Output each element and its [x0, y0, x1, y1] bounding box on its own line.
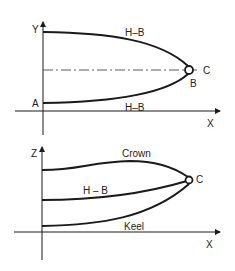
upper-hb-label: H–B	[125, 28, 144, 38]
half-breadth-curve	[42, 181, 187, 200]
upper-half-breadth-curve	[43, 32, 188, 66]
point-c-circle	[186, 177, 193, 184]
x-axis-label-bottom: X	[206, 240, 213, 250]
point-c-bottom-label: C	[196, 175, 203, 185]
hull-lines-diagram: Y H–B C B A H–B X Z Crown C H – B Keel X	[0, 0, 235, 271]
crown-label: Crown	[122, 149, 151, 159]
crown-curve	[42, 161, 188, 177]
bottom-profile-view	[14, 147, 220, 260]
keel-curve	[42, 184, 189, 226]
lower-hb-label: H–B	[125, 103, 144, 113]
x-axis-label-top: X	[207, 119, 214, 129]
middle-hb-label: H – B	[83, 186, 108, 196]
z-axis-label: Z	[31, 149, 37, 159]
lower-half-breadth-curve	[43, 74, 188, 103]
point-c-label: C	[203, 66, 210, 76]
point-b-circle	[185, 66, 193, 74]
point-b-label: B	[190, 79, 197, 89]
point-a-label: A	[32, 99, 39, 109]
keel-label: Keel	[124, 222, 144, 232]
y-axis-label: Y	[32, 25, 39, 35]
diagram-drawing	[0, 0, 235, 271]
